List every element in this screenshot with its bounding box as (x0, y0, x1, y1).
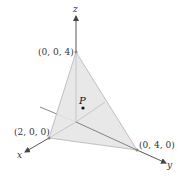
x-axis-label: x (17, 150, 22, 160)
point-p-label: P (78, 95, 86, 106)
z-axis-label: z (72, 4, 78, 14)
3d-plane-diagram: z x y (0, 0, 4) (2, 0, 0) (0, 4, 0) P (0, 0, 182, 180)
vertex-x-label: (2, 0, 0) (14, 127, 50, 137)
plane-triangle (49, 52, 137, 150)
point-p-dot (81, 106, 84, 109)
x-axis (25, 138, 49, 152)
vertex-z-dot (75, 51, 78, 54)
y-axis-label: y (166, 160, 173, 170)
y-axis (137, 150, 166, 163)
vertex-y-label: (0, 4, 0) (139, 140, 175, 150)
vertex-z-label: (0, 0, 4) (38, 47, 74, 57)
